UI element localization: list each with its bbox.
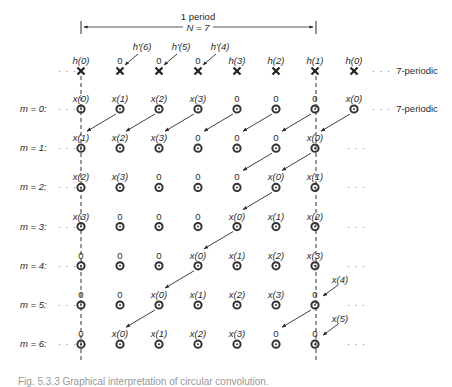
sample-point-icon — [233, 262, 240, 269]
sample-point-icon — [116, 341, 123, 348]
x-value-label: x(1) — [112, 94, 128, 104]
h-value-label: h(0) — [346, 56, 363, 66]
x-value-label: x(3) — [229, 329, 245, 339]
row-leading-ellipsis: · · · — [58, 143, 77, 153]
row-shift-label: m = 0: — [20, 104, 47, 114]
shift-arrow-icon — [125, 54, 138, 65]
sample-point-icon — [116, 145, 123, 152]
h-value-label: h(1) — [307, 56, 324, 66]
sample-point-icon — [116, 301, 123, 308]
shift-arrow-icon — [323, 324, 338, 335]
x-value-label: x(0) — [268, 172, 284, 182]
wrap-in-label: x(4) — [332, 275, 348, 285]
x-value-label: 0 — [273, 94, 278, 104]
h-value-label: 0 — [117, 56, 122, 66]
row-shift-label: m = 6: — [20, 339, 47, 349]
x-value-label: 0 — [234, 133, 239, 143]
sample-point-icon — [272, 301, 279, 308]
h-value-label: h(3) — [229, 56, 246, 66]
shift-arrow-icon — [203, 54, 216, 65]
shift-arrow-icon — [243, 114, 272, 131]
sample-point-icon — [311, 105, 318, 112]
row-trailing-ellipsis: · · · — [347, 300, 366, 310]
shift-arrow-icon — [204, 232, 233, 249]
x-value-label: x(0) — [190, 251, 206, 261]
x-value-label: x(1) — [229, 251, 245, 261]
sample-point-icon — [155, 223, 162, 230]
x-value-label: 0 — [312, 94, 317, 104]
sample-point-icon — [272, 341, 279, 348]
sample-point-icon — [311, 301, 318, 308]
h-prime-label: h'(6) — [133, 42, 152, 52]
row-leading-ellipsis: · · · — [58, 104, 77, 114]
x-value-label: 0 — [195, 212, 200, 222]
x-value-label: x(3) — [268, 290, 284, 300]
x-value-label: 0 — [156, 251, 161, 261]
sample-point-icon — [77, 145, 84, 152]
x-value-label: 0 — [156, 172, 161, 182]
x-value-label: x(0) — [151, 290, 167, 300]
row-shift-label: m = 2: — [20, 182, 47, 192]
x-value-label: x(2) — [151, 94, 167, 104]
filter-tap-cross-icon — [351, 68, 358, 75]
x-value-label: 0 — [78, 329, 83, 339]
figure-caption: Fig. 5.3.3 Graphical interpretation of c… — [18, 376, 269, 387]
sample-point-icon — [233, 223, 240, 230]
x-value-label: x(1) — [190, 290, 206, 300]
filter-tap-cross-icon — [78, 68, 85, 75]
h-row-trailing-ellipsis: · · · — [372, 66, 391, 76]
sample-point-icon — [155, 301, 162, 308]
sample-point-icon — [194, 262, 201, 269]
x-value-label: x(2) — [73, 172, 89, 182]
h-prime-label: h'(5) — [172, 42, 191, 52]
shift-arrow-icon — [126, 310, 155, 327]
h-value-label: h(0) — [73, 56, 90, 66]
sample-point-icon — [233, 184, 240, 191]
shift-arrow-icon — [165, 271, 194, 288]
x-value-label: 0 — [234, 172, 239, 182]
h-value-label: h(2) — [268, 56, 285, 66]
x-value-label: 0 — [78, 290, 83, 300]
x-value-label: x(3) — [73, 212, 89, 222]
sample-point-icon — [155, 145, 162, 152]
x-value-label: x(3) — [307, 251, 323, 261]
x-value-label: 0 — [195, 133, 200, 143]
sample-point-icon — [311, 262, 318, 269]
x-value-label: 0 — [312, 290, 317, 300]
sample-point-icon — [233, 145, 240, 152]
sample-point-icon — [311, 223, 318, 230]
shift-arrow-icon — [165, 114, 194, 131]
row-trailing-ellipsis: · · · — [372, 104, 391, 114]
shift-arrow-icon — [282, 114, 311, 131]
sample-point-icon — [116, 262, 123, 269]
shift-arrow-icon — [323, 285, 338, 296]
row-trailing-ellipsis: · · · — [347, 222, 366, 232]
x-value-label: x(2) — [112, 133, 128, 143]
row-shift-label: m = 4: — [20, 261, 47, 271]
sample-point-icon — [233, 105, 240, 112]
wrap-in-label: x(5) — [332, 314, 348, 324]
x-value-label: x(1) — [307, 172, 323, 182]
row-leading-ellipsis: · · · — [58, 182, 77, 192]
row-leading-ellipsis: · · · — [58, 261, 77, 271]
sample-point-icon — [311, 341, 318, 348]
x-value-label: x(2) — [307, 212, 323, 222]
x-value-label: x(1) — [268, 212, 284, 222]
sample-point-icon — [155, 184, 162, 191]
shift-arrow-icon — [243, 192, 272, 209]
sample-point-icon — [116, 105, 123, 112]
row-leading-ellipsis: · · · — [58, 339, 77, 349]
h-value-label: 0 — [156, 56, 161, 66]
row-leading-ellipsis: · · · — [58, 222, 77, 232]
shift-arrow-icon — [204, 114, 233, 131]
x-value-label: 0 — [117, 251, 122, 261]
x-value-label: x(0) — [307, 133, 323, 143]
sample-point-icon — [155, 262, 162, 269]
x-value-label: x(2) — [229, 290, 245, 300]
sample-point-icon — [194, 301, 201, 308]
sample-point-icon — [155, 341, 162, 348]
row-trailing-ellipsis: · · · — [347, 261, 366, 271]
sample-point-icon — [311, 145, 318, 152]
x-value-label: x(0) — [112, 329, 128, 339]
